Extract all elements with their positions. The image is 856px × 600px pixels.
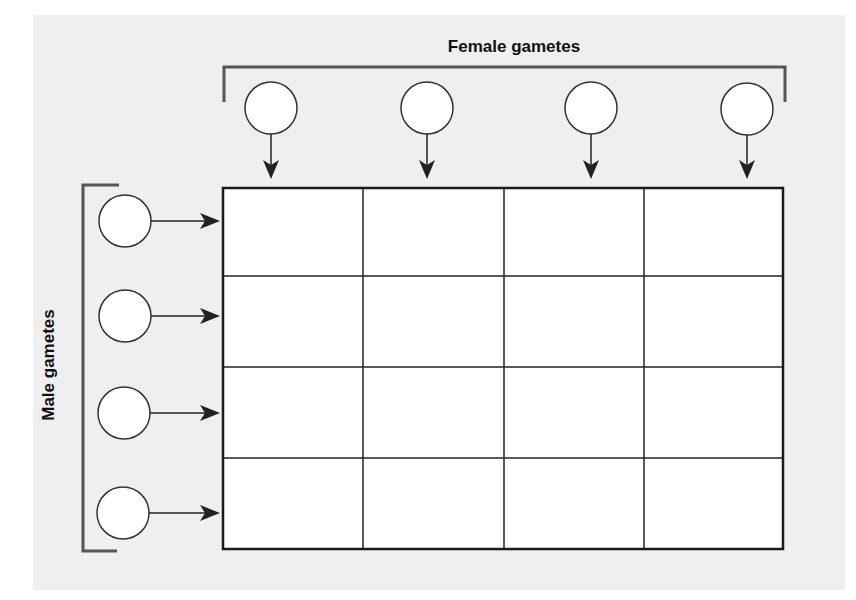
female-gamete-3 (565, 82, 617, 179)
gamete-circle-icon (721, 83, 773, 135)
punnett-square-diagram (0, 0, 856, 600)
male-gamete-4 (97, 487, 220, 539)
gamete-circle-icon (245, 82, 297, 134)
gamete-circle-icon (565, 82, 617, 134)
male-gamete-3 (98, 387, 220, 439)
grid-border (223, 188, 783, 549)
gamete-circle-icon (98, 387, 150, 439)
gamete-circle-icon (99, 195, 151, 247)
gamete-circle-icon (401, 82, 453, 134)
female-gamete-1 (245, 82, 297, 179)
gamete-circle-icon (97, 487, 149, 539)
male-gametes-label: Male gametes (39, 275, 59, 455)
punnett-grid (223, 188, 783, 549)
male-gamete-2 (99, 290, 220, 342)
female-gamete-2 (401, 82, 453, 179)
gamete-circle-icon (99, 290, 151, 342)
female-gamete-4 (721, 83, 773, 179)
male-gamete-1 (99, 195, 220, 247)
female-gametes-bracket (224, 67, 785, 102)
female-gametes-label: Female gametes (424, 37, 604, 57)
